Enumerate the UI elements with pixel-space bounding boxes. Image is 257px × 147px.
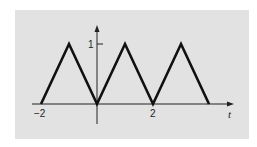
triangle-wave-line [41, 44, 209, 104]
y-axis-arrow-icon [95, 25, 100, 32]
triangle-wave-chart: 1 −2 2 t [0, 0, 257, 147]
x-axis-label: t [228, 108, 232, 120]
x-tick-label-neg2: −2 [34, 108, 46, 119]
x-tick-label-2: 2 [150, 108, 156, 119]
x-axis-arrow-icon [227, 102, 234, 107]
y-tick-label-1: 1 [88, 39, 94, 50]
